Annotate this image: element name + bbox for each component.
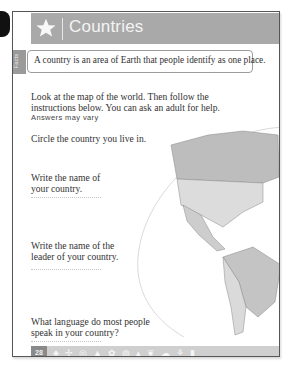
drop-icon: ▮ [190,348,195,357]
question-leader-name: Write the name of the leader of your cou… [31,240,119,262]
flower-icon: ✿ [108,348,116,357]
world-map[interactable] [113,117,280,337]
page-edge-tab [0,11,10,37]
compass-icon: ◎ [79,348,87,357]
definition-text: A country is an area of Earth that peopl… [34,55,266,65]
boat-icon: ▴ [136,348,141,357]
definition-box: A country is an area of Earth that peopl… [27,50,253,73]
answer-note: Answers may vary [31,113,99,122]
answer-line-leader-name[interactable] [31,269,101,270]
question-country-name: Write the name of your country. [31,172,101,194]
answer-line-country-name[interactable] [31,197,101,198]
pinwheel-icon: ✢ [65,348,73,357]
plant-icon: ⚘ [176,348,184,357]
page-footer: 28 ♣ ✢ ◎ ▲ ✿ ◍ ▴ ❦ ☁ ⚘ ▮ [31,346,279,357]
side-tab: Facts [13,50,26,74]
star-icon [35,17,57,39]
side-tab-label: Facts [13,54,19,69]
tree-icon: ♣ [53,348,59,357]
footer-icon-strip: ♣ ✢ ◎ ▲ ✿ ◍ ▴ ❦ ☁ ⚘ ▮ [53,346,195,357]
page-header: Countries [31,13,279,44]
leaf-icon: ❦ [147,348,155,357]
answer-line-language[interactable] [31,341,101,342]
header-divider [62,18,63,40]
cloud-icon: ☁ [161,348,170,357]
rocket-icon: ▲ [93,348,102,357]
worksheet-page: Countries Facts A country is an area of … [12,11,280,357]
instructions-text: Look at the map of the world. Then follo… [31,91,251,113]
page-title: Countries [69,17,144,37]
globe-icon: ◍ [122,348,130,357]
page-number: 28 [31,346,47,357]
